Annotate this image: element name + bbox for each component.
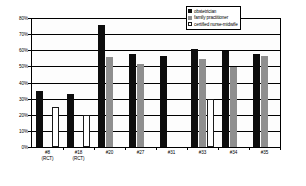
x-label-primary: #33 bbox=[187, 150, 218, 156]
bar-group bbox=[94, 19, 125, 147]
bar-group bbox=[249, 19, 280, 147]
x-axis-tick-mark bbox=[280, 147, 281, 150]
bar-0 bbox=[222, 51, 229, 147]
y-axis-tick-label: 60% bbox=[2, 48, 28, 53]
bar-1 bbox=[106, 57, 113, 147]
bar-group bbox=[63, 19, 94, 147]
black-square-swatch bbox=[188, 9, 192, 13]
x-axis-group-label: #27 bbox=[125, 150, 156, 174]
bar-0 bbox=[160, 56, 167, 147]
x-axis-group-label: #18(RCT) bbox=[63, 150, 94, 174]
legend-label: family practitioner bbox=[194, 15, 228, 20]
y-axis-tick-label: 10% bbox=[2, 128, 28, 133]
y-axis-tick-label: 30% bbox=[2, 96, 28, 101]
y-axis-tick-mark bbox=[28, 83, 31, 84]
y-axis-tick-mark bbox=[28, 18, 31, 19]
bar-0 bbox=[253, 54, 260, 147]
x-label-primary: #34 bbox=[218, 150, 249, 156]
bar-1 bbox=[261, 56, 268, 147]
x-label-secondary: (RCT) bbox=[32, 156, 63, 162]
x-axis-tick-mark bbox=[218, 147, 219, 150]
bar-0 bbox=[129, 54, 136, 147]
bar-0 bbox=[67, 94, 74, 147]
y-axis-tick-mark bbox=[28, 50, 31, 51]
bar-0 bbox=[98, 25, 105, 147]
bar-0 bbox=[191, 49, 198, 147]
bar-series-container bbox=[32, 19, 280, 147]
bar-0 bbox=[36, 91, 43, 147]
y-axis-tick-label: 20% bbox=[2, 112, 28, 117]
x-axis-group-label: #8(RCT) bbox=[32, 150, 63, 174]
bar-1 bbox=[230, 67, 237, 147]
bar-group bbox=[218, 19, 249, 147]
x-axis-group-label: #33 bbox=[187, 150, 218, 174]
x-axis-group-label: #35 bbox=[249, 150, 280, 174]
bar-group bbox=[187, 19, 218, 147]
x-label-primary: #27 bbox=[125, 150, 156, 156]
y-axis-tick-label: 80% bbox=[2, 16, 28, 21]
x-label-primary: #35 bbox=[249, 150, 280, 156]
y-axis-tick-mark bbox=[28, 147, 31, 148]
x-axis-tick-mark bbox=[125, 147, 126, 150]
bar-group bbox=[156, 19, 187, 147]
x-axis-labels: #8(RCT)#18(RCT)#20#27#31#33#34#35 bbox=[32, 150, 280, 174]
legend-label: certified nurse-midwife bbox=[194, 22, 238, 27]
y-axis-tick-mark bbox=[28, 115, 31, 116]
bar-1 bbox=[137, 64, 144, 147]
legend-label: obstetrician bbox=[194, 9, 216, 14]
grey-square-swatch bbox=[188, 16, 192, 20]
legend-item: certified nurse-midwife bbox=[188, 21, 238, 28]
bar-group bbox=[125, 19, 156, 147]
x-axis-tick-mark bbox=[156, 147, 157, 150]
y-axis-tick-label: 0% bbox=[2, 145, 28, 150]
x-axis-tick-mark bbox=[187, 147, 188, 150]
x-label-secondary: (RCT) bbox=[63, 156, 94, 162]
y-axis-tick-label: 40% bbox=[2, 80, 28, 85]
x-label-primary: #20 bbox=[94, 150, 125, 156]
y-axis-tick-label: 70% bbox=[2, 32, 28, 37]
chart-legend: obstetricianfamily practitionercertified… bbox=[186, 6, 241, 30]
y-axis-tick-label: 50% bbox=[2, 64, 28, 69]
x-axis-tick-mark bbox=[249, 147, 250, 150]
bar-2 bbox=[52, 107, 59, 147]
bar-2 bbox=[83, 115, 90, 147]
y-axis-tick-mark bbox=[28, 131, 31, 132]
x-label-primary: #31 bbox=[156, 150, 187, 156]
x-axis-tick-mark bbox=[94, 147, 95, 150]
y-axis-tick-mark bbox=[28, 99, 31, 100]
bar-2 bbox=[207, 99, 214, 147]
y-axis-tick-mark bbox=[28, 66, 31, 67]
x-axis-group-label: #34 bbox=[218, 150, 249, 174]
bar-group bbox=[32, 19, 63, 147]
white-square-swatch bbox=[188, 22, 192, 26]
x-axis-group-label: #31 bbox=[156, 150, 187, 174]
x-axis-group-label: #20 bbox=[94, 150, 125, 174]
bar-chart: 80%70%60%50%40%30%20%10%0% #8(RCT)#18(RC… bbox=[0, 0, 306, 186]
y-axis-tick-mark bbox=[28, 34, 31, 35]
bar-1 bbox=[199, 59, 206, 147]
x-axis-tick-mark bbox=[63, 147, 64, 150]
